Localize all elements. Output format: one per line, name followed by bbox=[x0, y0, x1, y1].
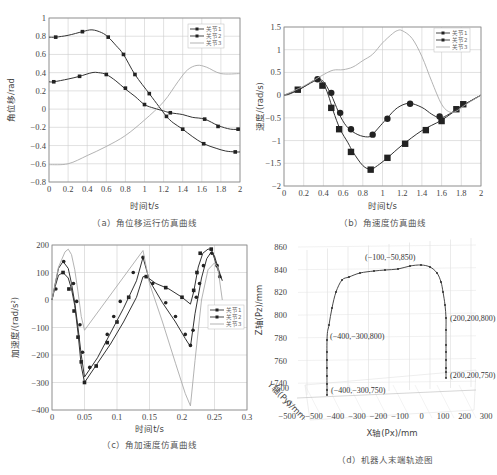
z-tick-label: 780 bbox=[274, 333, 287, 343]
legend-label: 关节1 bbox=[226, 306, 242, 314]
z-axis-label: Z轴(Pz)/mm bbox=[254, 285, 264, 335]
x-tick-label: 200 bbox=[458, 411, 471, 421]
z-tick-label: 860 bbox=[274, 242, 287, 252]
legend-label: 关节2 bbox=[206, 32, 222, 40]
x-tick-label: 0 bbox=[47, 184, 51, 194]
x-tick-label: 0.6 bbox=[338, 188, 349, 198]
point-annotation: (200,200,750) bbox=[450, 371, 496, 380]
y-tick-label: 0.6 bbox=[35, 49, 46, 59]
chart-b: 00.20.40.60.811.21.41.61.821.510.50−0.5−… bbox=[255, 22, 483, 228]
y-tick-label: 1 bbox=[277, 45, 281, 55]
y-tick-label: 0 bbox=[45, 295, 49, 305]
chart-caption: （a）角位移运行仿真曲线 bbox=[92, 218, 196, 228]
y-tick-label: 0.4 bbox=[35, 68, 46, 78]
y-tick-label: −200 bbox=[31, 350, 49, 360]
x-tick-label: 0 bbox=[419, 411, 423, 421]
x-tick-label: −300 bbox=[348, 411, 366, 421]
y-tick-label: −2 bbox=[272, 181, 281, 191]
x-tick-label: −200 bbox=[370, 411, 388, 421]
x-tick-label: 0.3 bbox=[242, 412, 253, 422]
x-tick-label: 1 bbox=[142, 184, 146, 194]
legend-label: 关节2 bbox=[226, 313, 242, 321]
x-tick-label: 1 bbox=[380, 188, 384, 198]
x-axis-label: 时间t/s bbox=[135, 424, 164, 434]
chart-caption: （c）角加速度仿真曲线 bbox=[102, 440, 197, 450]
x-tick-label: 1.4 bbox=[177, 184, 188, 194]
legend-label: 关节3 bbox=[226, 320, 242, 328]
legend-label: 关节1 bbox=[206, 25, 222, 33]
x-tick-label: 300 bbox=[480, 411, 493, 421]
x-tick-label: 0.25 bbox=[207, 412, 222, 422]
point-annotation: (−400,−300,750) bbox=[331, 386, 386, 395]
legend-label: 关节1 bbox=[452, 29, 468, 37]
y-tick-label: 100 bbox=[36, 268, 49, 278]
y-tick-label: −0.4 bbox=[31, 141, 47, 151]
x-tick-label: 0.1 bbox=[112, 412, 123, 422]
y-axis-label: 速度/(rad/s) bbox=[255, 82, 265, 131]
y-tick-label: 0.2 bbox=[35, 86, 46, 96]
chart-caption: （b）角速度仿真曲线 bbox=[339, 218, 425, 228]
x-tick-label: 1.2 bbox=[397, 188, 408, 198]
chart-d: 860840820800780760740−500−400−300−200−10… bbox=[254, 238, 496, 465]
y-tick-label: 0.8 bbox=[35, 31, 46, 41]
x-tick-label: 0.4 bbox=[318, 188, 329, 198]
x-tick-label: 0.2 bbox=[177, 412, 188, 422]
x-tick-label: 1.2 bbox=[158, 184, 169, 194]
x-tick-label: 0.05 bbox=[77, 412, 92, 422]
x-tick-label: 2 bbox=[479, 188, 483, 198]
x-tick-label: 0 bbox=[50, 412, 54, 422]
x-tick-label: −500 bbox=[305, 411, 323, 421]
y-tick-label: 0 bbox=[277, 90, 281, 100]
y-axis-label: 加速度/(rad/s²) bbox=[10, 297, 20, 358]
z-tick-label: 840 bbox=[274, 265, 287, 275]
y-tick-label: 200 bbox=[36, 240, 49, 250]
x-tick-label: 0.2 bbox=[298, 188, 309, 198]
x-tick-label: 1.6 bbox=[436, 188, 447, 198]
legend-label: 关节3 bbox=[206, 39, 222, 47]
x-tick-label: 1.8 bbox=[216, 184, 227, 194]
y-tick-label: 0.5 bbox=[270, 67, 281, 77]
trajectory bbox=[326, 264, 447, 396]
z-tick-label: 820 bbox=[274, 287, 287, 297]
y-tick-label: −0.6 bbox=[31, 159, 46, 169]
x-tick-label: −400 bbox=[327, 411, 345, 421]
y-tick-label: −300 bbox=[31, 378, 49, 388]
chart-caption: （d）机器人末端轨迹图 bbox=[337, 455, 432, 465]
x-tick-label: 1.6 bbox=[196, 184, 207, 194]
z-tick-label: 800 bbox=[274, 310, 287, 320]
x-tick-label: 2 bbox=[238, 184, 242, 194]
y-tick-label: −1 bbox=[272, 136, 281, 146]
x-tick-label: 0.8 bbox=[357, 188, 368, 198]
point-annotation: (−400,−300,800) bbox=[330, 332, 385, 341]
legend-label: 关节2 bbox=[452, 36, 468, 44]
x-tick-label: 1.8 bbox=[456, 188, 467, 198]
chart-a: 00.20.40.60.811.21.41.61.8210.80.60.40.2… bbox=[6, 13, 242, 228]
y-tick-label: −0.2 bbox=[31, 122, 46, 132]
y-tick-label: 1 bbox=[42, 13, 46, 23]
chart-c: 00.050.10.150.20.250.32001000−100−200−30… bbox=[10, 240, 252, 450]
legend: 关节1关节2关节3 bbox=[208, 305, 244, 329]
y-tick-label: 0 bbox=[42, 104, 46, 114]
x-tick-label: −100 bbox=[391, 411, 409, 421]
figure-canvas: 00.20.40.60.811.21.41.61.8210.80.60.40.2… bbox=[0, 0, 497, 475]
x-axis-label: 时间t/s bbox=[368, 201, 397, 211]
x-tick-label: 0.4 bbox=[82, 184, 93, 194]
series-j1 bbox=[52, 247, 221, 384]
x-tick-label: 0.2 bbox=[63, 184, 74, 194]
y-tick-label: −400 bbox=[31, 405, 49, 415]
point-annotation: (200,200,800) bbox=[450, 314, 496, 323]
y-tick-label: −0.5 bbox=[266, 113, 281, 123]
y-tick-label: −0.8 bbox=[31, 177, 46, 187]
series-j2 bbox=[52, 251, 222, 377]
legend: 关节1关节2关节3 bbox=[434, 28, 470, 52]
x-tick-label: 0 bbox=[282, 188, 286, 198]
legend-label: 关节3 bbox=[452, 43, 468, 51]
x-axis-label: X轴(Px)/mm bbox=[366, 428, 417, 438]
y-tick-label: −100 bbox=[31, 323, 49, 333]
x-tick-label: 0.15 bbox=[142, 412, 157, 422]
point-annotation: (−100,−50,850) bbox=[365, 253, 416, 262]
x-tick-label: 0.8 bbox=[120, 184, 131, 194]
x-tick-label: 1.4 bbox=[417, 188, 428, 198]
z-tick-label: 760 bbox=[274, 356, 287, 366]
x-tick-label: 100 bbox=[437, 411, 450, 421]
